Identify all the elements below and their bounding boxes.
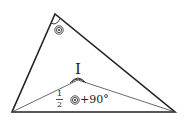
fraction-denominator: 2 [57, 100, 62, 109]
fraction-numerator: 1 [57, 89, 62, 98]
incenter-label: I [75, 60, 81, 78]
annotation-symbol-icon [71, 96, 79, 104]
apex-angle-mark-icon [55, 26, 63, 34]
annotation-suffix: +90° [80, 93, 109, 106]
bisector-left [12, 80, 78, 112]
